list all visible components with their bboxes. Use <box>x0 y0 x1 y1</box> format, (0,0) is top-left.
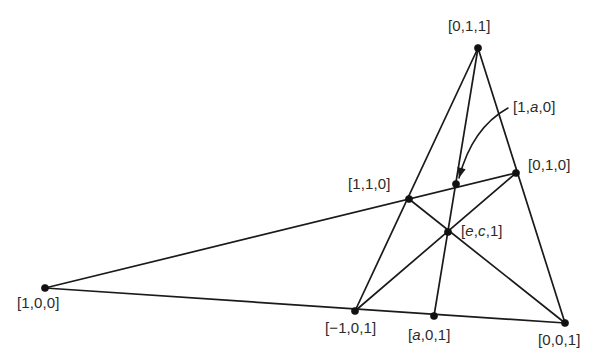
point-label-p_1a0: [1,a,0] <box>513 99 555 114</box>
vertex-dot-p_110 <box>405 195 412 202</box>
vertex-dot-p_010 <box>512 169 519 176</box>
point-label-p_001: [0,0,1] <box>538 332 580 347</box>
vertex-dot-p_001 <box>561 319 568 326</box>
vertex-dot-p_011 <box>474 44 481 51</box>
line-110-to-001 <box>409 199 565 323</box>
figure-root: [0,1,1] [1,a,0] [0,1,0] [1,1,0] [e,c,1] … <box>0 0 600 363</box>
point-label-p_ec1: [e,c,1] <box>461 223 503 238</box>
point-label-p_m101: [−1,0,1] <box>325 320 376 335</box>
line-011-to-001 <box>478 48 565 323</box>
point-label-p_010: [0,1,0] <box>528 157 570 172</box>
point-label-p_011: [0,1,1] <box>448 18 490 33</box>
vertex-dot-p_100 <box>41 284 48 291</box>
line-010-to-m101 <box>355 173 516 311</box>
vertex-dot-p_ec1 <box>444 228 451 235</box>
vertex-dot-p_a01 <box>430 312 437 319</box>
segments-group <box>45 48 565 323</box>
vertex-dot-p_m101 <box>351 307 358 314</box>
vertex-dot-p_1a0 <box>452 180 459 187</box>
point-label-p_a01: [a,0,1] <box>408 327 450 342</box>
line-100-to-001 <box>45 288 565 323</box>
leader-arrowhead-icon <box>457 167 465 178</box>
point-label-p_100: [1,0,0] <box>17 295 59 310</box>
diagram-canvas <box>0 0 600 363</box>
point-label-p_110: [1,1,0] <box>348 176 390 191</box>
